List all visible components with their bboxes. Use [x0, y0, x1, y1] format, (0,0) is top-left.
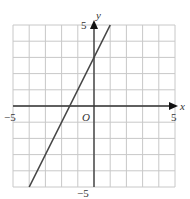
x-min-tick-label: −5: [4, 111, 16, 123]
x-axis: [13, 102, 178, 110]
y-axis: [90, 20, 98, 187]
x-axis-arrow-icon: [169, 102, 178, 110]
y-min-tick-label: −5: [77, 187, 89, 199]
x-axis-label: x: [179, 100, 185, 112]
coordinate-graph: y 5 x 5 −5 O −5: [0, 0, 190, 199]
origin-label: O: [82, 111, 90, 123]
y-axis-label: y: [95, 9, 101, 21]
y-max-tick-label: 5: [81, 19, 87, 31]
x-max-tick-label: 5: [171, 111, 177, 123]
